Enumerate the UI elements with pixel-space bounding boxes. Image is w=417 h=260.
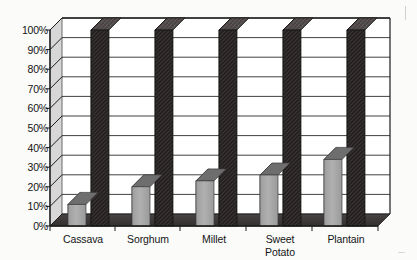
y-tick-90: 90% [4, 44, 48, 56]
y-tick-80: 80% [4, 63, 48, 75]
y-tick-40: 40% [4, 142, 48, 154]
scan-artifact-top-right [405, 6, 406, 20]
y-tick-30: 30% [4, 161, 48, 173]
y-tick-100: 100% [4, 24, 48, 36]
scan-artifact-bottom-right [398, 252, 405, 253]
y-tick-60: 60% [4, 102, 48, 114]
y-tick-70: 70% [4, 83, 48, 95]
chart-plot-area [0, 0, 417, 260]
y-tick-0: 0% [4, 220, 48, 232]
chart-x-axis-ticks [50, 226, 378, 231]
y-tick-50: 50% [4, 122, 48, 134]
y-tick-10: 10% [4, 200, 48, 212]
y-tick-20: 20% [4, 181, 48, 193]
y-axis-tick-labels: 100% 90% 80% 70% 60% 50% 40% 30% 20% 10%… [0, 0, 48, 260]
bar-chart: 100% 90% 80% 70% 60% 50% 40% 30% 20% 10%… [0, 0, 417, 260]
